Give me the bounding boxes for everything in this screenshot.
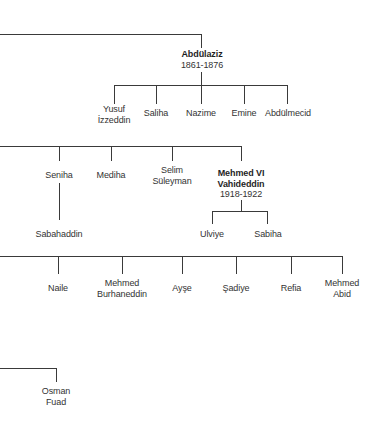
person-sadiye: Şadiye — [223, 283, 250, 294]
person-name: Vahideddin — [217, 179, 264, 190]
person-name: Emine — [231, 108, 256, 119]
person-name: Naile — [48, 283, 68, 294]
person-name: Seniha — [45, 170, 72, 181]
person-name: Selim — [152, 165, 191, 176]
person-ayse: Ayşe — [172, 283, 191, 294]
person-sabahaddin: Sabahaddin — [35, 229, 82, 240]
person-naile: Naile — [48, 283, 68, 294]
person-name: Abdülaziz — [181, 49, 223, 60]
connector-line — [156, 85, 157, 104]
connector-line — [172, 146, 173, 161]
person-name: Abdülmecid — [265, 108, 311, 119]
person-yusuf-izzeddin: Yusuf İzzeddin — [98, 104, 131, 125]
person-name: Burhaneddin — [97, 289, 147, 300]
person-name: Osman — [42, 386, 71, 397]
person-name: Mehmed VI — [217, 168, 264, 179]
connector-line — [236, 256, 237, 274]
person-mediha: Mediha — [97, 170, 126, 181]
connector-line — [56, 368, 57, 382]
connector-line — [291, 256, 292, 274]
person-name: Saliha — [144, 108, 168, 119]
person-seniha: Seniha — [45, 170, 72, 181]
person-name: Yusuf — [98, 104, 131, 115]
connector-line — [212, 211, 268, 212]
connector-line — [111, 146, 112, 161]
person-name: Sabahaddin — [35, 229, 82, 240]
connector-line — [58, 256, 59, 274]
person-name: Refia — [281, 283, 302, 294]
person-abdulmecid: Abdülmecid — [265, 108, 311, 119]
person-name: Sabiha — [254, 229, 281, 240]
connector-line — [201, 34, 202, 48]
connector-line — [114, 85, 115, 104]
person-refia: Refia — [281, 283, 302, 294]
connector-line — [0, 368, 57, 369]
connector-line — [0, 146, 242, 147]
connector-line — [241, 200, 242, 211]
connector-line — [182, 256, 183, 274]
person-mehmed-abid: Mehmed Abid — [325, 278, 359, 299]
person-name: Mehmed — [325, 278, 359, 289]
connector-line — [201, 72, 202, 104]
person-name: Mehmed — [97, 278, 147, 289]
connector-line — [267, 211, 268, 224]
person-osman-fuad: Osman Fuad — [42, 386, 71, 407]
connector-line — [59, 146, 60, 161]
person-name: Nazime — [186, 108, 216, 119]
connector-line — [122, 256, 123, 274]
person-nazime: Nazime — [186, 108, 216, 119]
person-name: Mediha — [97, 170, 126, 181]
connector-line — [114, 85, 288, 86]
person-name: Şadiye — [223, 283, 250, 294]
person-name: Abid — [325, 289, 359, 300]
connector-line — [212, 211, 213, 224]
person-sabiha: Sabiha — [254, 229, 281, 240]
person-mehmed-vi-vahideddin: Mehmed VI Vahideddin 1918-1922 — [217, 168, 264, 200]
person-name: İzzeddin — [98, 115, 131, 126]
person-saliha: Saliha — [144, 108, 168, 119]
person-name: Süleyman — [152, 176, 191, 187]
reign-years: 1861-1876 — [181, 60, 223, 71]
person-emine: Emine — [231, 108, 256, 119]
person-name: Ayşe — [172, 283, 191, 294]
person-name: Ulviye — [200, 229, 224, 240]
connector-line — [244, 85, 245, 104]
reign-years: 1918-1922 — [217, 189, 264, 200]
person-mehmed-burhaneddin: Mehmed Burhaneddin — [97, 278, 147, 299]
connector-line — [59, 183, 60, 220]
connector-line — [241, 146, 242, 161]
person-ulviye: Ulviye — [200, 229, 224, 240]
connector-line — [0, 34, 202, 35]
connector-line — [342, 256, 343, 274]
person-name: Fuad — [42, 397, 71, 408]
person-abdulaziz: Abdülaziz 1861-1876 — [181, 49, 223, 70]
person-selim-suleyman: Selim Süleyman — [152, 165, 191, 186]
connector-line — [287, 85, 288, 104]
